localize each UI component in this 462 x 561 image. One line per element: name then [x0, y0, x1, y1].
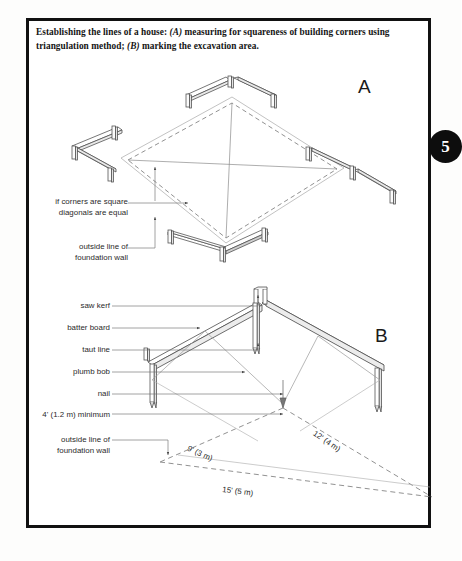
label-minimum-distance: 4' (1.2 m) minimum — [14, 409, 110, 420]
label-diagonals-equal: if corners are square diagonals are equa… — [24, 196, 128, 218]
label-outside-line-a: outside line of foundation wall — [24, 241, 128, 263]
label-plumb-bob: plumb bob — [28, 366, 110, 377]
caption-marker-a: (A) — [169, 27, 182, 37]
figure-caption: Establishing the lines of a house: (A) m… — [36, 26, 416, 53]
label-batter-board: batter board — [28, 322, 110, 333]
label-taut-line: taut line — [28, 344, 110, 355]
caption-marker-b: (B) — [127, 41, 140, 51]
caption-part-3: marking the excavation area. — [140, 41, 259, 51]
panel-letter-b: B — [375, 325, 388, 347]
label-saw-kerf: saw kerf — [28, 300, 110, 311]
panel-letter-a: A — [358, 76, 371, 98]
label-nail: nail — [28, 388, 110, 399]
label-outside-line-b: outside line of foundation wall — [24, 434, 110, 456]
caption-part-1: Establishing the lines of a house: — [36, 27, 169, 37]
page-number-badge: 5 — [429, 130, 462, 163]
